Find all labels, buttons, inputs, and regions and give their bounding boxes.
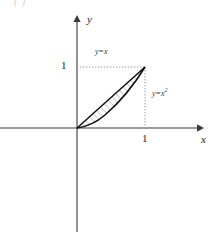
math-figure-area-between-curves: ( ): [0, 0, 213, 240]
curve-label-y-equals-x-squared: y=x2: [152, 90, 168, 98]
x-axis-label: x: [201, 134, 206, 145]
curve-label-exponent: 2: [165, 87, 168, 93]
y-axis: [73, 15, 80, 232]
x-axis: [0, 124, 204, 132]
curve-label-y-equals-x: y=x: [95, 48, 108, 56]
curve-label-base: y=x: [152, 89, 165, 98]
curve-y-equals-x: [77, 67, 145, 128]
y-axis-tick-label-1: 1: [61, 60, 67, 71]
x-axis-tick-label-1: 1: [142, 133, 148, 144]
coordinate-plane-svg: [0, 0, 213, 240]
y-axis-label: y: [87, 14, 92, 25]
